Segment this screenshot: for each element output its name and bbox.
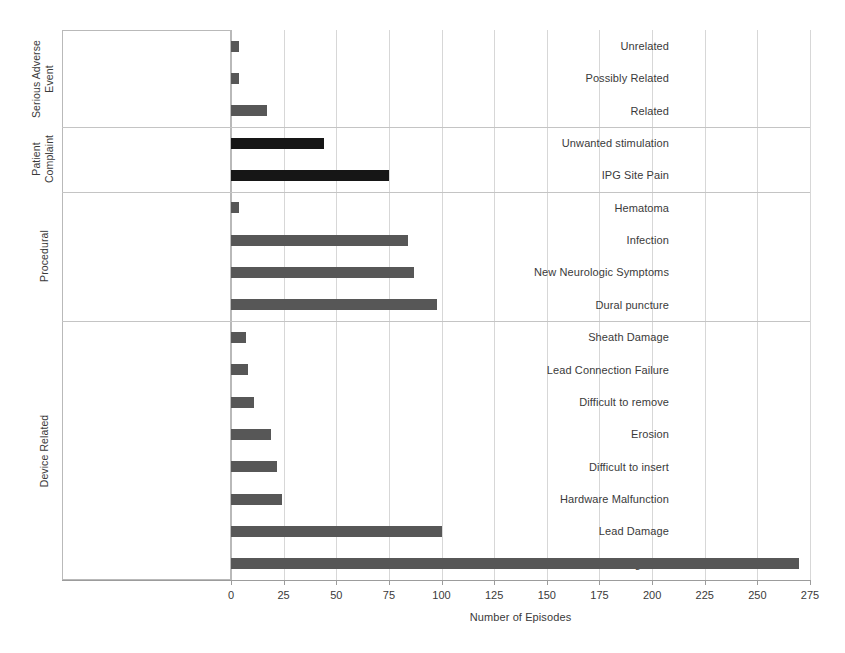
x-axis-tick-label: 225	[696, 589, 714, 601]
x-axis-tick-label: 250	[748, 589, 766, 601]
x-axis-tick	[389, 580, 390, 585]
x-axis-tick	[599, 580, 600, 585]
x-axis-tick-label: 75	[383, 589, 395, 601]
x-axis-tick-label: 25	[278, 589, 290, 601]
plot-area	[231, 30, 810, 580]
x-axis-line	[62, 580, 810, 581]
x-axis-tick	[442, 580, 443, 585]
x-axis-tick	[705, 580, 706, 585]
x-axis-tick	[231, 580, 232, 585]
x-axis-tick	[810, 580, 811, 585]
x-axis-tick-label: 150	[538, 589, 556, 601]
x-axis-tick	[757, 580, 758, 585]
group-caption-text: Procedural	[38, 231, 50, 283]
bar-chart-figure: UnrelatedPossibly RelatedRelatedUnwanted…	[0, 0, 845, 653]
group-caption-text: Patient	[30, 143, 42, 176]
group-caption-text: Device Related	[38, 414, 50, 487]
group-separator	[62, 127, 810, 128]
x-axis-tick	[547, 580, 548, 585]
x-axis-tick-label: 125	[485, 589, 503, 601]
x-axis-tick	[336, 580, 337, 585]
group-caption-text: Complaint	[43, 135, 55, 183]
x-axis-title: Number of Episodes	[231, 611, 810, 623]
group-caption-text: Serious Adverse	[30, 40, 42, 118]
x-axis-tick-label: 175	[590, 589, 608, 601]
group-separator	[62, 192, 810, 193]
x-axis-tick-label: 100	[432, 589, 450, 601]
x-axis-tick	[652, 580, 653, 585]
group-caption-text: Event	[43, 65, 55, 92]
x-axis-tick	[284, 580, 285, 585]
category-label-panel	[62, 30, 231, 580]
x-axis-tick-label: 0	[228, 589, 234, 601]
x-axis-tick-label: 200	[643, 589, 661, 601]
x-axis-tick	[494, 580, 495, 585]
x-axis-tick-label: 50	[330, 589, 342, 601]
group-separator	[62, 321, 810, 322]
x-axis-tick-label: 275	[801, 589, 819, 601]
